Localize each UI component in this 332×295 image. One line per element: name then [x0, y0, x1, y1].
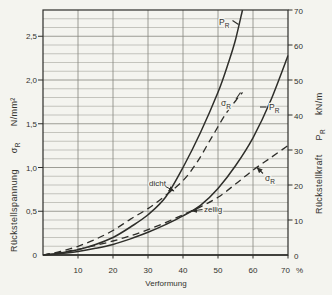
curve-label-PR-zellig: PR	[269, 102, 280, 114]
x-axis-title: Verformung	[145, 279, 186, 288]
curve-label-sub: R	[226, 103, 231, 110]
curve-label-sigmaR-zellig: σR	[265, 173, 275, 185]
x-tick-label: 50	[214, 266, 223, 275]
y-right-tick-label: 70	[294, 7, 303, 16]
curve-PR-zellig	[43, 56, 288, 256]
y-left-tick-label: 1,0	[26, 164, 38, 173]
gridlines	[43, 10, 288, 255]
curve-label-sigmaR-dicht: σR	[221, 98, 231, 110]
region-label-zellig: zellig	[204, 205, 222, 214]
y-right-axis-title: Rückstellkraft PR kN/m	[314, 92, 327, 214]
region-label-dicht: dicht	[149, 179, 167, 188]
y-right-tick-label: 30	[294, 147, 303, 156]
y-left-unit: N/mm²	[9, 97, 19, 126]
x-tick-label: 10	[74, 266, 83, 275]
y-left-tick-label: 0	[33, 251, 38, 260]
y-right-tick-label: 50	[294, 77, 303, 86]
y-left-name: Rückstellspannung	[9, 169, 19, 252]
x-tick-label: 20	[109, 266, 118, 275]
y-left-symbol-sub: R	[14, 142, 21, 147]
curve-label-connector	[236, 93, 241, 100]
curve-label-connector	[233, 21, 239, 25]
y-right-tick-label: 20	[294, 182, 303, 191]
y-right-name: Rückstellkraft	[314, 154, 324, 214]
curve-label-connector	[257, 168, 263, 174]
curve-label-sub: R	[270, 178, 275, 185]
x-axis-unit: %	[296, 266, 303, 275]
y-right-tick-label: 40	[294, 112, 303, 121]
curve-label-sub: R	[225, 22, 230, 29]
y-right-tick-label: 60	[294, 42, 303, 51]
pressure-deformation-chart: 00,51,01,52,02,5010203040506070102030405…	[0, 0, 332, 295]
y-right-tick-label: 10	[294, 217, 303, 226]
y-left-tick-label: 0,5	[26, 207, 38, 216]
x-tick-label: 60	[249, 266, 258, 275]
y-left-tick-label: 1,5	[26, 120, 38, 129]
y-right-symbol-sub: R	[319, 129, 326, 134]
y-left-tick-label: 2,5	[26, 32, 38, 41]
curve-sigma-R-dicht	[43, 92, 243, 255]
x-tick-label: 30	[144, 266, 153, 275]
curve-sigma-R-zellig	[43, 146, 288, 255]
x-tick-label: 40	[179, 266, 188, 275]
y-right-tick-label: 0	[294, 252, 299, 261]
y-left-axis-title: Rückstellspannung σR N/mm²	[9, 97, 22, 252]
y-right-unit: kN/m	[314, 92, 324, 115]
x-tick-label: 70	[281, 266, 290, 275]
axis-tick-labels: 00,51,01,52,02,5010203040506070102030405…	[26, 7, 304, 275]
y-left-tick-label: 2,0	[26, 76, 38, 85]
curve-label-sub: R	[275, 107, 280, 114]
annotations: PRσRPRσRdichtzellig	[149, 17, 280, 214]
chart-figure: 00,51,01,52,02,5010203040506070102030405…	[0, 0, 332, 295]
